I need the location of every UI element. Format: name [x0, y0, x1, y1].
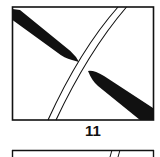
double-curved-line-right — [56, 7, 127, 120]
double-curved-line-left — [48, 7, 118, 120]
thick-band-upper-left — [13, 9, 80, 62]
thick-band-lower-right — [88, 71, 153, 120]
panel-label: 11 — [78, 122, 108, 139]
